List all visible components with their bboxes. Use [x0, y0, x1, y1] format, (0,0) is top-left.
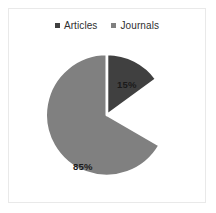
pie-graphic — [42, 50, 172, 180]
pie-chart-card: Articles Journals 15% 85% — [8, 8, 206, 203]
pie-label-articles: 15% — [117, 79, 137, 90]
pie-label-journals: 85% — [73, 161, 93, 172]
pie-plot-area: 15% 85% — [9, 9, 207, 204]
